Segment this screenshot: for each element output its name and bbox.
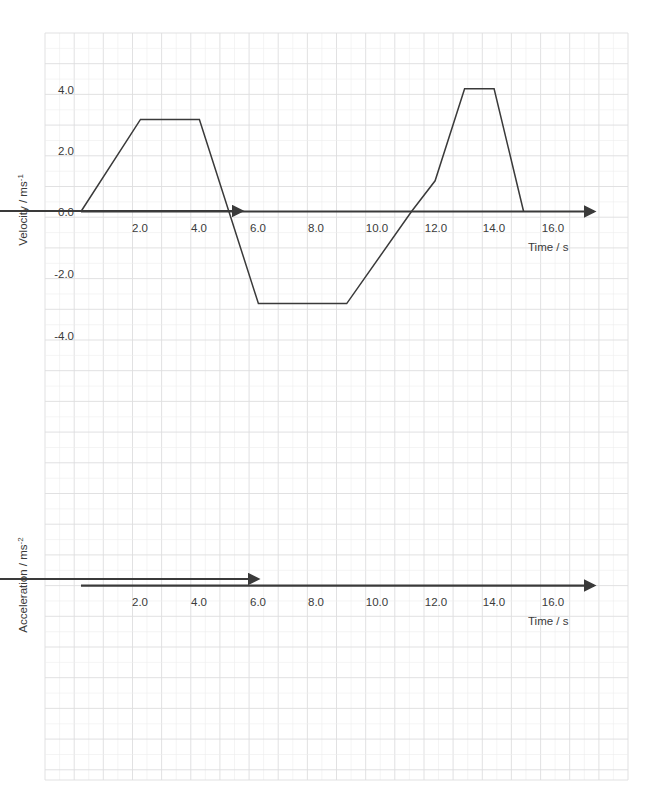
velocity-xtick-12: 12.0 [425,222,447,234]
grid-major-vertical [45,33,628,780]
acceleration-xtick-4: 4.0 [191,596,207,608]
velocity-xtick-16: 16.0 [542,222,564,234]
acceleration-xtick-8: 8.0 [308,596,324,608]
velocity-y-axis-title: Velocity / ms-1 [16,174,29,246]
velocity-y-axis-title-base: Velocity / ms [17,181,29,246]
velocity-xtick-4: 4.0 [191,222,207,234]
graph-page: 4.0 2.0 0.0 -2.0 -4.0 2.0 4.0 6.0 8.0 10… [0,0,654,802]
acceleration-x-axis-title: Time / s [528,615,569,627]
svg-text:Acceleration / ms-2: Acceleration / ms-2 [16,537,29,633]
velocity-xtick-10: 10.0 [366,222,388,234]
acceleration-xtick-6: 6.0 [250,596,266,608]
velocity-xtick-8: 8.0 [308,222,324,234]
acceleration-y-axis-title-base: Acceleration / ms [17,544,29,632]
acceleration-xtick-2: 2.0 [132,596,148,608]
velocity-ytick-neg4: -4.0 [54,330,74,342]
acceleration-y-axis-title-exponent: -2 [16,537,25,545]
acceleration-xtick-12: 12.0 [425,596,447,608]
acceleration-xtick-10: 10.0 [366,596,388,608]
velocity-x-axis-title: Time / s [528,241,569,253]
velocity-xtick-14: 14.0 [483,222,505,234]
velocity-ytick-2: 2.0 [58,145,74,157]
dual-graph-figure: 4.0 2.0 0.0 -2.0 -4.0 2.0 4.0 6.0 8.0 10… [0,0,654,802]
graph-paper-grid [45,33,628,780]
acceleration-xtick-16: 16.0 [542,596,564,608]
acceleration-xtick-14: 14.0 [483,596,505,608]
velocity-xtick-6: 6.0 [250,222,266,234]
velocity-ytick-0: 0.0 [58,206,74,218]
velocity-ytick-neg2: -2.0 [54,268,74,280]
acceleration-y-axis-title: Acceleration / ms-2 [16,537,29,633]
velocity-xtick-2: 2.0 [132,222,148,234]
velocity-ytick-4: 4.0 [58,84,74,96]
velocity-y-axis-title-exponent: -1 [16,174,25,182]
svg-text:Velocity / ms-1: Velocity / ms-1 [16,174,29,246]
